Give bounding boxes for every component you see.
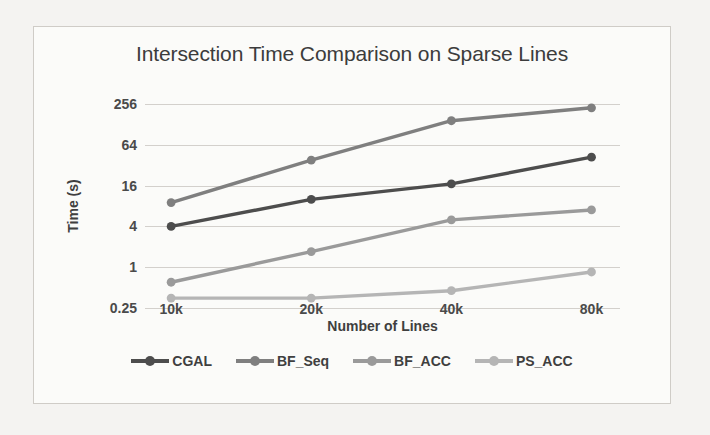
legend-label: CGAL [172,353,212,369]
legend-label: PS_ACC [516,353,573,369]
legend-item-ps_acc[interactable]: PS_ACC [475,353,573,369]
series-lines [34,27,672,405]
data-point-cgal [307,195,316,204]
data-point-bf_acc [307,247,316,256]
legend-item-bf_acc[interactable]: BF_ACC [353,353,451,369]
data-point-cgal [587,153,596,162]
legend-item-cgal[interactable]: CGAL [131,353,212,369]
series-line-ps_acc [171,272,591,298]
data-point-ps_acc [447,286,456,295]
data-point-bf_acc [447,215,456,224]
plot-area: Time (s) Number of Lines 2566416410.25 1… [34,27,672,405]
series-line-bf_acc [171,210,591,282]
series-line-bf_seq [171,108,591,203]
data-point-cgal [167,222,176,231]
legend-item-bf_seq[interactable]: BF_Seq [236,353,329,369]
data-point-bf_seq [447,116,456,125]
legend-swatch-icon [131,355,169,367]
data-point-bf_seq [307,156,316,165]
data-point-ps_acc [307,294,316,303]
data-point-ps_acc [167,294,176,303]
legend-swatch-icon [475,355,513,367]
legend-label: BF_Seq [277,353,329,369]
data-point-bf_acc [167,278,176,287]
chart-legend: CGALBF_SeqBF_ACCPS_ACC [34,353,670,369]
chart-figure: Intersection Time Comparison on Sparse L… [33,26,671,404]
data-point-bf_seq [167,198,176,207]
data-point-cgal [447,179,456,188]
data-point-bf_acc [587,206,596,215]
legend-swatch-icon [353,355,391,367]
legend-swatch-icon [236,355,274,367]
data-point-bf_seq [587,103,596,112]
data-point-ps_acc [587,268,596,277]
legend-label: BF_ACC [394,353,451,369]
